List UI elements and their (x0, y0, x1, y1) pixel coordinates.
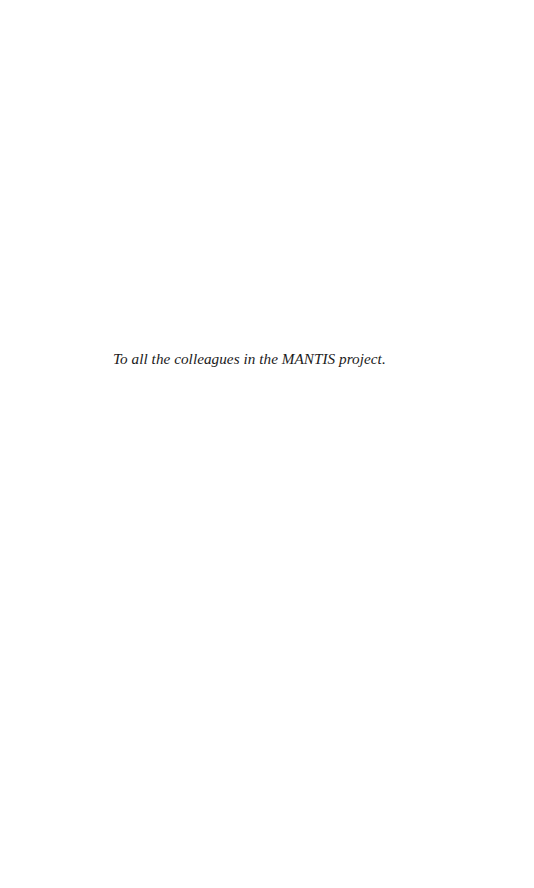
dedication-text: To all the colleagues in the MANTIS proj… (113, 350, 386, 368)
document-page: To all the colleagues in the MANTIS proj… (0, 0, 534, 888)
